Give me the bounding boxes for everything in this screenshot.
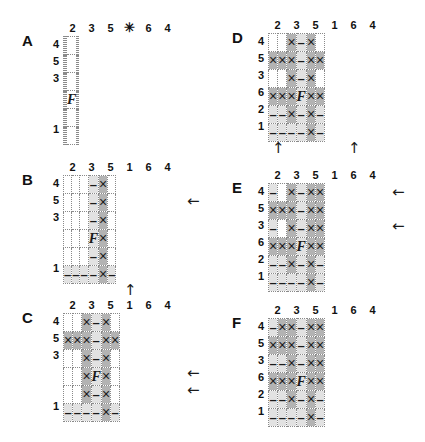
matrix-cell[interactable]: – <box>278 256 287 274</box>
matrix-cell[interactable]: – <box>278 391 287 409</box>
matrix-cell[interactable]: × <box>99 266 108 284</box>
matrix-cell[interactable]: F <box>296 88 306 106</box>
matrix-cell[interactable]: × <box>278 337 287 355</box>
matrix-cell[interactable]: – <box>88 176 98 194</box>
matrix-cell[interactable]: – <box>296 70 306 88</box>
matrix-cell[interactable]: × <box>82 368 91 386</box>
matrix-cell[interactable]: – <box>296 409 306 427</box>
matrix-cell[interactable]: × <box>306 373 315 391</box>
matrix-cell[interactable] <box>73 350 82 368</box>
matrix-cell[interactable]: – <box>316 124 325 142</box>
matrix-cell[interactable]: × <box>82 386 91 404</box>
matrix-cell[interactable]: × <box>99 230 108 248</box>
matrix-cell[interactable]: × <box>316 355 325 373</box>
matrix-cell[interactable]: – <box>88 194 98 212</box>
matrix-cell[interactable]: × <box>306 34 315 52</box>
matrix-cell[interactable]: – <box>296 184 306 202</box>
matrix-cell[interactable]: × <box>269 238 278 256</box>
matrix-cell[interactable]: × <box>287 184 296 202</box>
matrix-cell[interactable] <box>67 109 77 127</box>
matrix-cell[interactable]: × <box>101 314 110 332</box>
matrix-cell[interactable]: × <box>278 238 287 256</box>
matrix-cell[interactable]: × <box>99 176 108 194</box>
matrix-cell[interactable]: × <box>306 355 315 373</box>
matrix-cell[interactable] <box>278 34 287 52</box>
matrix-cell[interactable]: – <box>287 409 296 427</box>
matrix-cell[interactable]: – <box>91 386 101 404</box>
matrix-cell[interactable] <box>78 91 79 109</box>
matrix-cell[interactable]: × <box>287 355 296 373</box>
matrix-cell[interactable]: × <box>306 274 315 292</box>
matrix-cell[interactable]: – <box>316 106 325 124</box>
matrix-cell[interactable] <box>316 34 325 52</box>
matrix-cell[interactable]: × <box>101 332 110 350</box>
matrix-cell[interactable]: × <box>287 106 296 124</box>
matrix-cell[interactable]: – <box>269 274 278 292</box>
matrix-cell[interactable]: – <box>278 274 287 292</box>
matrix-cell[interactable]: – <box>269 409 278 427</box>
matrix-cell[interactable]: × <box>306 409 315 427</box>
matrix-cell[interactable]: – <box>269 220 278 238</box>
matrix-cell[interactable]: × <box>269 373 278 391</box>
matrix-cell[interactable] <box>108 194 116 212</box>
matrix-cell[interactable] <box>269 34 278 52</box>
matrix-cell[interactable]: × <box>287 34 296 52</box>
matrix-cell[interactable]: – <box>316 274 325 292</box>
matrix-cell[interactable]: × <box>73 332 82 350</box>
matrix-cell[interactable]: × <box>306 202 315 220</box>
matrix-cell[interactable] <box>64 176 72 194</box>
matrix-cell[interactable]: F <box>88 230 98 248</box>
matrix-cell[interactable]: – <box>296 202 306 220</box>
matrix-cell[interactable] <box>72 248 80 266</box>
matrix-cell[interactable]: × <box>306 337 315 355</box>
matrix-cell[interactable] <box>80 230 88 248</box>
matrix-cell[interactable]: – <box>296 52 306 70</box>
matrix-cell[interactable] <box>80 176 88 194</box>
matrix-cell[interactable] <box>269 70 278 88</box>
matrix-cell[interactable]: × <box>287 238 296 256</box>
matrix-cell[interactable] <box>67 37 77 55</box>
matrix-cell[interactable] <box>78 109 79 127</box>
matrix-cell[interactable]: – <box>88 266 98 284</box>
matrix-cell[interactable]: – <box>296 256 306 274</box>
matrix-cell[interactable]: × <box>316 184 325 202</box>
matrix-cell[interactable]: – <box>278 409 287 427</box>
matrix-cell[interactable]: × <box>306 106 315 124</box>
matrix-cell[interactable] <box>278 70 287 88</box>
matrix-cell[interactable] <box>67 127 77 145</box>
matrix-cell[interactable]: × <box>287 88 296 106</box>
matrix-cell[interactable]: F <box>91 368 101 386</box>
matrix-cell[interactable]: – <box>278 106 287 124</box>
matrix-cell[interactable]: × <box>287 70 296 88</box>
matrix-cell[interactable]: – <box>88 248 98 266</box>
matrix-cell[interactable]: × <box>306 184 315 202</box>
matrix-cell[interactable]: – <box>269 355 278 373</box>
matrix-cell[interactable]: × <box>64 332 73 350</box>
matrix-cell[interactable] <box>111 314 120 332</box>
matrix-cell[interactable]: × <box>278 88 287 106</box>
matrix-cell[interactable]: – <box>64 404 73 422</box>
matrix-cell[interactable] <box>73 368 82 386</box>
matrix-cell[interactable]: – <box>82 404 91 422</box>
matrix-cell[interactable] <box>111 350 120 368</box>
matrix-cell[interactable]: × <box>306 220 315 238</box>
matrix-cell[interactable]: × <box>99 248 108 266</box>
matrix-cell[interactable]: – <box>269 184 278 202</box>
matrix-cell[interactable]: × <box>101 368 110 386</box>
matrix-cell[interactable]: × <box>306 124 315 142</box>
matrix-cell[interactable]: – <box>72 266 80 284</box>
matrix-cell[interactable] <box>80 194 88 212</box>
matrix-cell[interactable] <box>72 230 80 248</box>
matrix-cell[interactable]: – <box>316 409 325 427</box>
matrix-cell[interactable]: × <box>278 202 287 220</box>
matrix-cell[interactable]: – <box>296 34 306 52</box>
matrix-cell[interactable]: – <box>287 124 296 142</box>
matrix-cell[interactable]: × <box>269 337 278 355</box>
matrix-cell[interactable]: × <box>287 373 296 391</box>
matrix-cell[interactable]: × <box>306 391 315 409</box>
matrix-cell[interactable] <box>108 176 116 194</box>
matrix-cell[interactable] <box>111 386 120 404</box>
matrix-cell[interactable]: × <box>306 70 315 88</box>
matrix-cell[interactable]: – <box>80 266 88 284</box>
matrix-cell[interactable]: × <box>287 256 296 274</box>
